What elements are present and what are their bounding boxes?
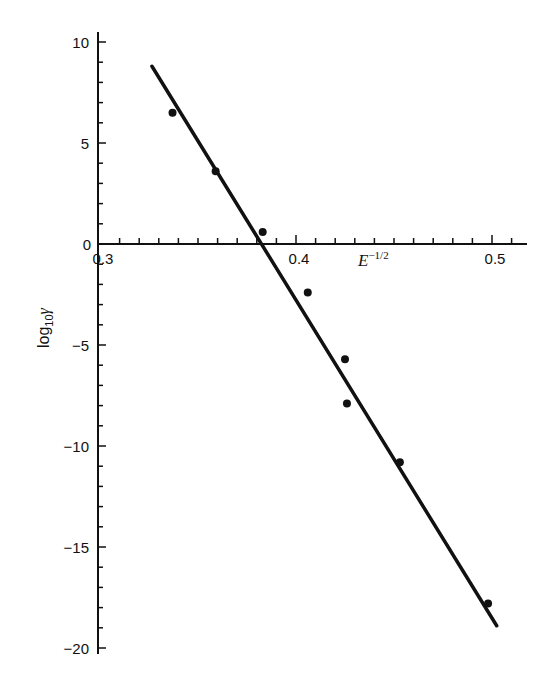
fit-line	[152, 66, 497, 626]
data-point	[304, 288, 312, 296]
y-tick-label: 0	[83, 236, 91, 253]
y-tick-label: 5	[81, 135, 89, 152]
data-point	[259, 228, 267, 236]
axes	[98, 32, 527, 654]
y-tick-label: −20	[64, 640, 89, 657]
data-point	[484, 600, 492, 608]
data-point	[341, 355, 349, 363]
y-tick-labels: 1050−5−10−15−20	[64, 34, 91, 657]
y-tick-label: −15	[64, 539, 89, 556]
x-axis-title: E−1/2	[357, 249, 389, 270]
y-tick-label: 10	[72, 34, 89, 51]
data-point	[343, 400, 351, 408]
data-point	[169, 109, 177, 117]
chart: 1050−5−10−15−20 0.30.40.5 E−1/2 log10γ	[0, 0, 557, 680]
x-tick-label: 0.3	[93, 250, 114, 267]
x-tick-labels: 0.30.40.5	[93, 250, 506, 267]
y-tick-label: −5	[72, 337, 89, 354]
x-tick-label: 0.4	[289, 250, 310, 267]
data-point	[396, 458, 404, 466]
fit-line-path	[152, 66, 497, 626]
x-tick-label: 0.5	[485, 250, 506, 267]
y-axis-title: log10γ	[35, 307, 55, 348]
y-tick-label: −10	[64, 438, 89, 455]
data-point	[212, 167, 220, 175]
